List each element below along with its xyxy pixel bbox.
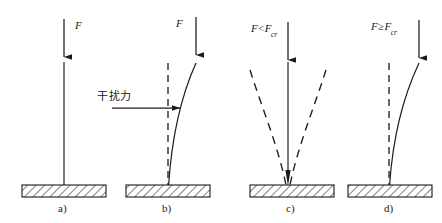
panel-a-force-label: F (75, 20, 82, 31)
panel-d-base-block (348, 185, 432, 197)
panel-d-critical-subscript: cr (391, 28, 397, 37)
panel-c-force-label: F<Fcr (251, 23, 278, 37)
disturbance-force-label: 干扰力 (97, 91, 132, 102)
panel-caption-a: a) (58, 203, 67, 214)
panel-d-force-symbol: F (371, 20, 378, 32)
panel-c-dashed-curve-right (290, 70, 326, 185)
panel-b (112, 17, 210, 197)
panel-d-force-label: F≥Fcr (371, 21, 397, 35)
panel-d-buckled-column (390, 63, 419, 185)
panel-a-base-block (22, 185, 106, 197)
panel-caption-b: b) (162, 203, 171, 214)
panel-caption-d: d) (384, 203, 393, 214)
panel-d (348, 20, 432, 197)
panel-b-force-label: F (176, 18, 183, 29)
panel-c-relation-symbol: < (258, 23, 265, 34)
panel-c-critical-subscript: cr (271, 30, 277, 39)
panel-d-relation-symbol: ≥ (378, 21, 385, 32)
panel-b-force-symbol: F (176, 17, 183, 29)
panel-a-force-symbol: F (75, 19, 82, 31)
panel-c (250, 22, 334, 197)
panel-b-buckled-column (169, 63, 196, 185)
panel-c-dashed-curve-left (250, 70, 286, 185)
panel-caption-c: c) (286, 203, 295, 214)
panel-a (22, 19, 106, 197)
panel-c-base-block (250, 185, 334, 197)
panel-c-force-symbol: F (251, 22, 258, 34)
panel-b-base-block (126, 185, 210, 197)
